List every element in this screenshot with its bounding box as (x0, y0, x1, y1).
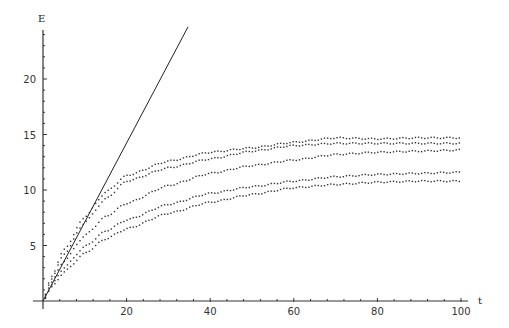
data-point (129, 218, 130, 219)
data-point (374, 143, 375, 144)
data-point (167, 204, 168, 205)
data-point (424, 143, 425, 144)
data-point (452, 180, 453, 181)
data-point (220, 172, 221, 173)
data-point (227, 150, 228, 151)
data-point (173, 160, 174, 161)
data-point (446, 172, 447, 173)
data-point (430, 150, 431, 151)
data-point (92, 207, 93, 208)
x-axis-label: t (478, 295, 482, 306)
data-point (114, 226, 115, 227)
data-point (205, 174, 206, 175)
data-point (145, 175, 146, 176)
data-point (343, 176, 344, 177)
data-point (82, 218, 83, 219)
data-point (79, 227, 80, 228)
data-point (133, 179, 134, 180)
data-point (336, 137, 337, 138)
data-point (245, 195, 246, 196)
data-point (151, 209, 152, 210)
data-point (242, 187, 243, 188)
data-point (314, 178, 315, 179)
data-point (233, 154, 234, 155)
data-point (89, 212, 90, 213)
data-point (333, 184, 334, 185)
data-point (371, 137, 372, 138)
data-point (459, 149, 460, 150)
data-point (183, 181, 184, 182)
data-point (412, 150, 413, 151)
data-point (349, 138, 350, 139)
x-tick-label: 80 (371, 306, 384, 317)
data-point (274, 161, 275, 162)
data-point (45, 298, 46, 299)
data-point (277, 146, 278, 147)
data-point (402, 151, 403, 152)
data-point (195, 195, 196, 196)
data-point (336, 176, 337, 177)
data-point (277, 161, 278, 162)
data-point (92, 213, 93, 214)
series-curve-2 (45, 142, 460, 295)
data-point (98, 206, 99, 207)
data-point (133, 226, 134, 227)
data-point (324, 137, 325, 138)
data-point (136, 199, 137, 200)
data-point (283, 147, 284, 148)
data-point (374, 174, 375, 175)
data-point (339, 142, 340, 143)
data-point (424, 150, 425, 151)
data-point (189, 179, 190, 180)
data-point (289, 159, 290, 160)
data-point (399, 137, 400, 138)
data-point (67, 250, 68, 251)
data-point (311, 144, 312, 145)
data-point (355, 183, 356, 184)
data-point (101, 201, 102, 202)
data-point (198, 195, 199, 196)
data-point (95, 226, 96, 227)
data-point (267, 191, 268, 192)
data-point (443, 137, 444, 138)
data-point (142, 197, 143, 198)
data-point (377, 152, 378, 153)
data-point (368, 151, 369, 152)
data-point (136, 172, 137, 173)
data-point (151, 191, 152, 192)
data-point (89, 217, 90, 218)
data-point (151, 219, 152, 220)
data-point (57, 275, 58, 276)
data-point (111, 214, 112, 215)
data-point (242, 148, 243, 149)
data-point (271, 148, 272, 149)
data-point (255, 148, 256, 149)
data-point (358, 175, 359, 176)
data-point (129, 180, 130, 181)
data-point (189, 206, 190, 207)
data-point (111, 188, 112, 189)
data-point (148, 210, 149, 211)
data-point (114, 192, 115, 193)
data-point (274, 183, 275, 184)
data-point (393, 173, 394, 174)
data-point (98, 199, 99, 200)
data-point (368, 183, 369, 184)
data-point (51, 276, 52, 277)
data-point (449, 150, 450, 151)
data-point (155, 209, 156, 210)
data-point (155, 164, 156, 165)
data-point (183, 157, 184, 158)
data-point (380, 151, 381, 152)
data-point (155, 170, 156, 171)
data-point (446, 142, 447, 143)
data-point (339, 154, 340, 155)
data-point (120, 222, 121, 223)
data-point (54, 280, 55, 281)
data-point (151, 165, 152, 166)
data-point (443, 181, 444, 182)
data-point (277, 190, 278, 191)
data-point (252, 147, 253, 148)
data-point (227, 190, 228, 191)
data-point (195, 176, 196, 177)
